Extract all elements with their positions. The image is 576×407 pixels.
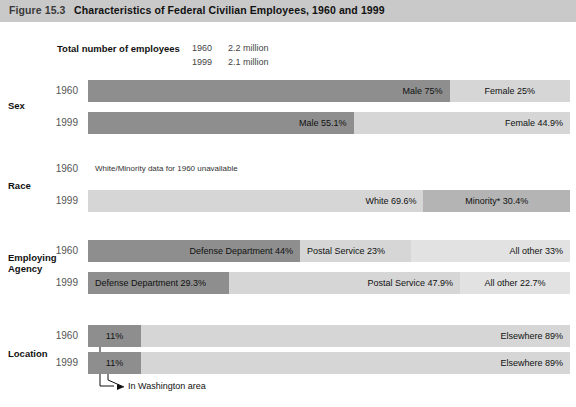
- total-year-1960: 1960: [192, 43, 212, 53]
- bar-segment-agency-1999-other: All other 22.7%: [460, 272, 570, 294]
- bar-segment-race-1999-white: White 69.6%: [88, 190, 423, 212]
- bar-segment-agency-1960-postal: Postal Service 23%: [300, 240, 411, 262]
- race-1960-unavailable-note: White/Minority data for 1960 unavailable: [95, 164, 238, 173]
- bar-segment-sex-1999-male: Male 55.1%: [88, 112, 354, 134]
- total-value-1960: 2.2 million: [228, 43, 269, 53]
- bar-row-sex-1999: Male 55.1% Female 44.9%: [88, 112, 570, 134]
- bar-segment-agency-1960-other: All other 33%: [411, 240, 570, 262]
- year-label-race-1960: 1960: [18, 163, 78, 174]
- washington-callout-label: In Washington area: [128, 381, 206, 391]
- bar-row-race-1999: White 69.6% Minority* 30.4%: [88, 190, 570, 212]
- total-employees-label: Total number of employees: [57, 43, 180, 54]
- year-label-location-1999: 1999: [18, 357, 78, 368]
- figure-title: Characteristics of Federal Civilian Empl…: [74, 4, 385, 16]
- bar-segment-agency-1960-defense: Defense Department 44%: [88, 240, 300, 262]
- bar-segment-location-1999-elsewhere: Elsewhere 89%: [141, 352, 570, 374]
- year-label-sex-1999: 1999: [18, 117, 78, 128]
- bar-segment-location-1999-washington: 11%: [88, 352, 141, 374]
- bar-segment-sex-1999-female: Female 44.9%: [354, 112, 570, 134]
- year-label-location-1960: 1960: [18, 330, 78, 341]
- year-label-race-1999: 1999: [18, 195, 78, 206]
- year-label-agency-1999: 1999: [18, 277, 78, 288]
- bar-segment-race-1999-minority: Minority* 30.4%: [423, 190, 570, 212]
- bar-row-agency-1999: Defense Department 29.3% Postal Service …: [88, 272, 570, 294]
- total-value-1999: 2.1 million: [228, 57, 269, 67]
- category-label-employing-agency-line2: Agency: [8, 263, 57, 274]
- category-label-race: Race: [8, 180, 31, 191]
- total-year-1999: 1999: [192, 57, 212, 67]
- figure-number: Figure 15.3: [9, 4, 66, 16]
- bar-segment-location-1960-elsewhere: Elsewhere 89%: [141, 325, 570, 347]
- bar-row-location-1999: 11% Elsewhere 89%: [88, 352, 570, 374]
- bar-row-sex-1960: Male 75% Female 25%: [88, 80, 570, 102]
- bar-row-agency-1960: Defense Department 44% Postal Service 23…: [88, 240, 570, 262]
- bar-segment-agency-1999-defense: Defense Department 29.3%: [88, 272, 229, 294]
- figure-container: Figure 15.3 Characteristics of Federal C…: [0, 0, 576, 407]
- year-label-agency-1960: 1960: [18, 245, 78, 256]
- bar-row-location-1960: 11% Elsewhere 89%: [88, 325, 570, 347]
- bar-segment-sex-1960-female: Female 25%: [450, 80, 571, 102]
- bar-segment-location-1960-washington: 11%: [88, 325, 141, 347]
- category-label-sex: Sex: [8, 100, 25, 111]
- bar-segment-agency-1999-postal: Postal Service 47.9%: [229, 272, 460, 294]
- bar-segment-sex-1960-male: Male 75%: [88, 80, 450, 102]
- year-label-sex-1960: 1960: [18, 85, 78, 96]
- figure-header-band: Figure 15.3 Characteristics of Federal C…: [0, 0, 576, 22]
